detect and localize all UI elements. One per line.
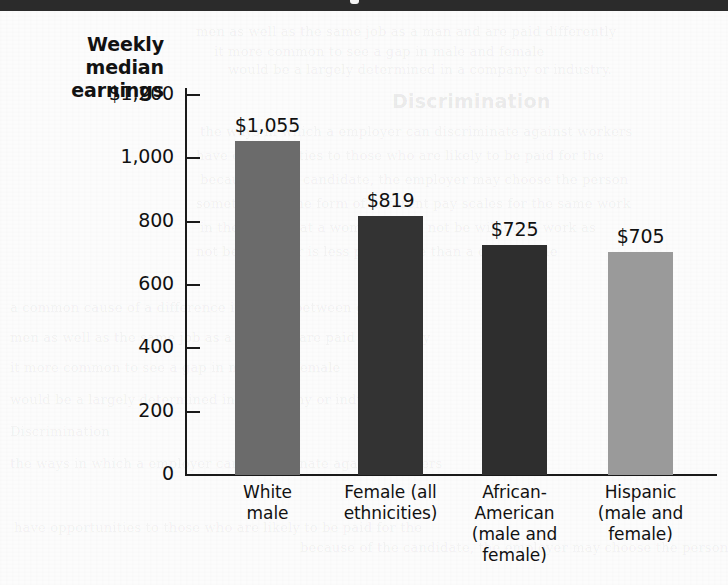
bar bbox=[235, 141, 300, 475]
x-category-label: Whitemale bbox=[202, 482, 333, 524]
x-category-label-line: (male and bbox=[449, 524, 580, 545]
x-category-label-line: Hispanic bbox=[575, 482, 706, 503]
y-tick-label: 400 bbox=[62, 335, 174, 357]
bar-value-label: $1,055 bbox=[210, 114, 325, 136]
y-tick-mark bbox=[187, 221, 200, 223]
x-category-label-line: Female (all bbox=[325, 482, 456, 503]
y-axis-line bbox=[185, 88, 187, 476]
x-category-label-line: African- bbox=[449, 482, 580, 503]
y-tick-label: 200 bbox=[62, 399, 174, 421]
x-category-label: Female (allethnicities) bbox=[325, 482, 456, 524]
x-category-label-line: White bbox=[202, 482, 333, 503]
plot-area: $1,2001,0008006004002000 $1,055Whitemale… bbox=[0, 0, 728, 585]
bar-value-label: $725 bbox=[457, 218, 572, 240]
y-tick-label: 600 bbox=[62, 272, 174, 294]
y-tick-mark bbox=[187, 347, 200, 349]
x-category-label-line: American bbox=[449, 503, 580, 524]
y-tick-label: 0 bbox=[62, 462, 174, 484]
chart-page: men as well as the same job as a man and… bbox=[0, 0, 728, 585]
x-category-label-line: ethnicities) bbox=[325, 503, 456, 524]
y-tick-mark bbox=[187, 94, 200, 96]
y-tick-label: 800 bbox=[62, 209, 174, 231]
x-category-label-line: female) bbox=[449, 545, 580, 566]
x-category-label-line: (male and bbox=[575, 503, 706, 524]
bar bbox=[482, 245, 547, 475]
x-category-label: Hispanic(male andfemale) bbox=[575, 482, 706, 545]
x-category-label-line: male bbox=[202, 503, 333, 524]
x-category-label: African-American(male andfemale) bbox=[449, 482, 580, 566]
y-tick-mark bbox=[187, 411, 200, 413]
bar-value-label: $819 bbox=[333, 189, 448, 211]
bar-value-label: $705 bbox=[583, 225, 698, 247]
y-tick-label: 1,000 bbox=[62, 145, 174, 167]
y-tick-mark bbox=[187, 157, 200, 159]
bar bbox=[608, 252, 673, 475]
y-tick-label: $1,200 bbox=[62, 82, 174, 104]
x-category-label-line: female) bbox=[575, 524, 706, 545]
y-tick-mark bbox=[187, 284, 200, 286]
bar bbox=[358, 216, 423, 475]
